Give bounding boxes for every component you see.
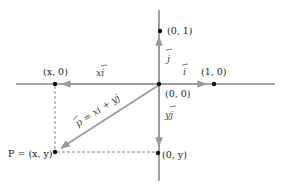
label-vector-p-group: p = xi + yj — [73, 91, 122, 128]
point-origin — [157, 82, 161, 86]
label-vector-yj: yj — [164, 109, 173, 120]
bar-yj — [170, 106, 176, 107]
point-x-proj — [53, 82, 57, 86]
label-vector-xi: xi — [96, 67, 104, 78]
label-vector-p: p = xi + yj — [73, 92, 122, 129]
label-p: P = (x, y) — [8, 148, 53, 159]
label-y-proj: (0, y) — [162, 149, 187, 160]
bar-j — [166, 49, 172, 50]
bar-xi — [101, 65, 107, 66]
point-y-proj — [156, 151, 160, 155]
vector-diagram: (0, 1) (1, 0) (0, 0) (x, 0) (0, y) P = (… — [0, 0, 283, 191]
point-unit-y — [158, 29, 162, 33]
label-vector-j: j — [165, 53, 170, 64]
label-origin: (0, 0) — [165, 88, 191, 99]
label-unit-y: (0, 1) — [167, 25, 193, 36]
point-p — [53, 150, 57, 154]
label-x-proj: (x, 0) — [43, 66, 68, 77]
point-unit-x — [212, 82, 216, 86]
label-vector-i: i — [183, 66, 186, 77]
bar-i — [182, 64, 188, 65]
label-unit-x: (1, 0) — [201, 66, 227, 77]
